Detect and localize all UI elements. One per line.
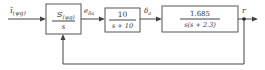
block-1: S(ψg) s — [46, 4, 81, 34]
input-label: ī(ψg) — [10, 6, 26, 17]
output-signal: r — [238, 6, 258, 22]
input-arrow-icon — [40, 17, 46, 22]
output-label: r — [242, 6, 247, 15]
signal-1-label: eδa — [84, 7, 94, 16]
input-signal: ī(ψg) — [8, 6, 46, 22]
block-2: 10 s + 10 — [105, 8, 140, 32]
feedback-arrow-icon — [61, 34, 66, 40]
block-1-denominator: s — [62, 23, 66, 31]
signal-delta-a: δa — [140, 7, 162, 22]
arrow-2-3-icon — [156, 17, 162, 22]
block-3-numerator: 1.685 — [190, 10, 210, 18]
block-3: 1.685 s(s + 2.3) — [162, 6, 238, 32]
output-arrow-icon — [252, 17, 258, 22]
block-diagram: ī(ψg) S(ψg) s eδa 10 s + 10 δa 1.685 — [0, 0, 265, 70]
signal-2-label: δa — [144, 7, 151, 16]
block-2-numerator: 10 — [118, 10, 128, 19]
signal-e-delta-a: eδa — [81, 7, 105, 22]
block-2-denominator: s + 10 — [112, 22, 133, 30]
arrow-1-2-icon — [99, 17, 105, 22]
block-3-denominator: s(s + 2.3) — [184, 21, 216, 29]
